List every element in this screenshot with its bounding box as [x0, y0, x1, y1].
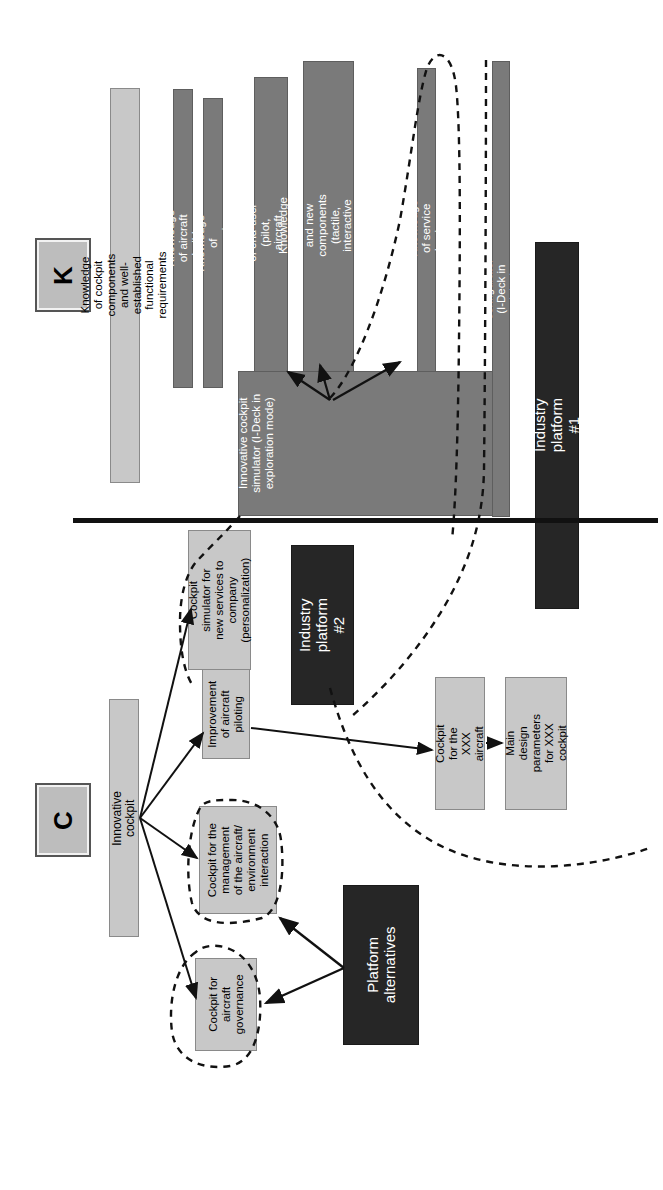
k-node-traditional-new-components: Knowledge of traditional and new compone…	[303, 61, 354, 389]
c-node-cockpit-simulator-new-services-label: Cockpit simulator for new services to co…	[187, 557, 251, 642]
k-node-cockpit-configurator: Cockpit configurator (I-Deck in exploita…	[492, 61, 510, 517]
c-node-cockpit-xxx-aircraft: Cockpit for the XXX aircraft	[435, 677, 485, 810]
c-node-cockpit-management-interaction-label: Cockpit for the management of the aircra…	[206, 822, 270, 898]
c-node-improvement-aircraft-piloting: Improvement of aircraft piloting	[202, 669, 250, 759]
c-node-platform-alternatives: Platform alternatives	[343, 885, 419, 1045]
c-space-badge-label: C	[48, 811, 79, 830]
k-node-traditional-new-components-label: Knowledge of traditional and new compone…	[277, 194, 380, 257]
k-node-industry-platform-1: Industry platform #1	[535, 242, 579, 609]
k-node-innovative-cockpit-simulator-label: Innovative cockpit simulator (I-Deck in …	[237, 376, 276, 511]
c-node-cockpit-simulator-new-services: Cockpit simulator for new services to co…	[188, 530, 251, 670]
ck-diagram-canvas: K Knowledge of cockpit components and we…	[0, 0, 663, 1190]
c-node-main-design-parameters: Main design parameters for XXX cockpit	[505, 677, 567, 810]
k-node-companies-label: Knowledge of companies	[194, 215, 233, 272]
c-node-cockpit-management-interaction: Cockpit for the management of the aircra…	[199, 806, 277, 914]
k-node-innovative-cockpit-simulator: Innovative cockpit simulator (I-Deck in …	[238, 371, 493, 516]
c-node-industry-platform-2-label: Industry platform #2	[297, 594, 347, 655]
c-node-industry-platform-2: Industry platform #2	[291, 545, 354, 705]
c-node-improvement-aircraft-piloting-label: Improvement of aircraft piloting	[207, 680, 246, 747]
k-node-cockpit-components-label: Knowledge of cockpit components and well…	[80, 252, 170, 319]
k-node-service-business: Knowledge of service business	[417, 68, 436, 388]
k-node-aircraft-builder: Knowledge of aircraft builder	[173, 89, 193, 388]
k-node-service-business-label: Knowledge of service business	[407, 200, 446, 257]
c-node-cockpit-xxx-aircraft-label: Cockpit for the XXX aircraft	[434, 720, 486, 768]
c-node-cockpit-aircraft-governance-label: Cockpit for aircraft governance	[207, 974, 246, 1034]
c-node-innovative-cockpit-label: Innovative cockpit	[111, 791, 138, 846]
c-space-badge: C	[37, 785, 89, 855]
k-node-industry-platform-1-label: Industry platform #1	[532, 398, 582, 452]
platform-alternatives-arrows	[266, 918, 344, 1003]
k-node-cockpit-configurator-label: Cockpit configurator (I-Deck in exploita…	[469, 259, 533, 320]
c-node-cockpit-aircraft-governance: Cockpit for aircraft governance	[195, 958, 257, 1051]
k-space-badge-label: K	[48, 266, 79, 285]
c-node-innovative-cockpit: Innovative cockpit	[109, 699, 139, 937]
ck-divider-line	[73, 518, 658, 523]
c-node-main-design-parameters-label: Main design parameters for XXX cockpit	[504, 714, 568, 774]
dashed-path-lower-sweep	[330, 688, 650, 867]
c-node-platform-alternatives-label: Platform alternatives	[364, 927, 398, 1004]
k-node-companies: Knowledge of companies	[203, 98, 223, 388]
k-node-cockpit-components: Knowledge of cockpit components and well…	[110, 88, 140, 483]
